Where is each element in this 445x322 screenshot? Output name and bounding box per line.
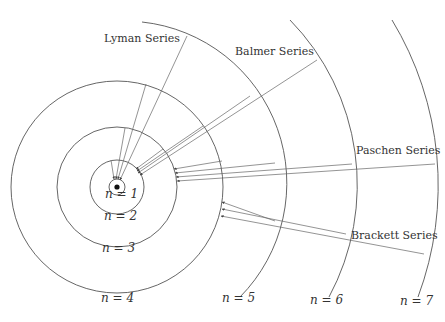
level-label-n4: n = 4 xyxy=(101,291,134,305)
lyman-series-label: Lyman Series xyxy=(104,32,180,45)
transition-arrow xyxy=(140,60,317,175)
transition-arrow xyxy=(137,126,203,171)
transition-arrow xyxy=(120,36,187,180)
level-label-n6: n = 6 xyxy=(310,293,343,307)
transition-arrow xyxy=(177,164,435,181)
transition-arrow xyxy=(175,163,275,173)
paschen-series-label: Paschen Series xyxy=(356,144,440,157)
transition-arrow xyxy=(111,160,114,179)
level-label-n3: n = 3 xyxy=(102,241,135,255)
orbit-group xyxy=(11,20,438,297)
orbit-n7 xyxy=(392,20,438,297)
energy-level-diagram xyxy=(0,0,445,322)
balmer-series-label: Balmer Series xyxy=(235,45,314,58)
level-label-n2: n = 2 xyxy=(104,209,137,223)
level-label-n1: n = 1 xyxy=(105,187,138,201)
level-label-n5: n = 5 xyxy=(222,291,255,305)
orbit-n6 xyxy=(290,20,357,297)
level-label-n7: n = 7 xyxy=(400,294,433,308)
transition-arrow xyxy=(138,96,250,173)
brackett-series-label: Brackett Series xyxy=(351,229,438,242)
transition-arrow xyxy=(174,161,222,169)
